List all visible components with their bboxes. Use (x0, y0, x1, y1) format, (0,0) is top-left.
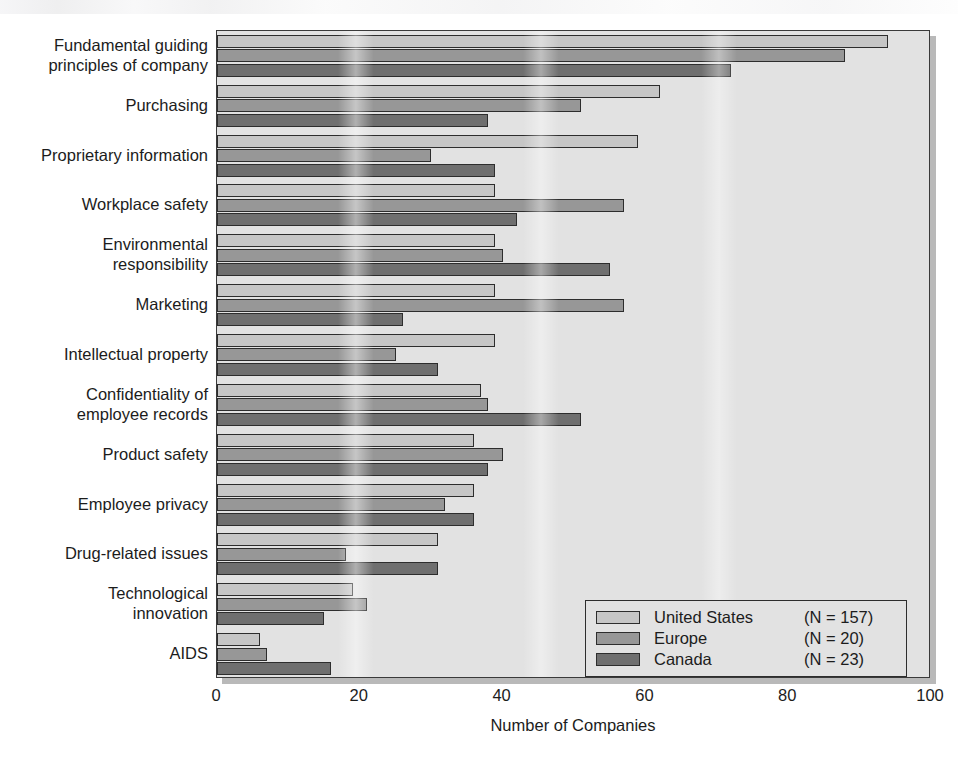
legend-sample-size: (N = 23) (804, 650, 864, 669)
legend-row: Europe(N = 20) (596, 628, 898, 649)
legend-series-name: Canada (654, 650, 804, 669)
x-tick-20: 20 (350, 686, 368, 705)
legend-swatch-us (596, 611, 640, 624)
x-tick-40: 40 (492, 686, 510, 705)
legend-row: Canada(N = 23) (596, 649, 898, 670)
legend-series-name: Europe (654, 629, 804, 648)
x-axis-title: Number of Companies (216, 716, 930, 735)
legend-row: United States(N = 157) (596, 607, 898, 628)
legend-sample-size: (N = 20) (804, 629, 864, 648)
x-tick-100: 100 (916, 686, 944, 705)
horizontal-bar-chart: Fundamental guiding principles of compan… (0, 0, 958, 768)
x-tick-80: 80 (778, 686, 796, 705)
legend-series-name: United States (654, 608, 804, 627)
legend-swatch-canada (596, 653, 640, 666)
legend-sample-size: (N = 157) (804, 608, 873, 627)
legend-swatch-europe (596, 632, 640, 645)
x-tick-0: 0 (211, 686, 220, 705)
chart-legend: United States(N = 157)Europe(N = 20)Cana… (585, 600, 907, 677)
x-tick-60: 60 (635, 686, 653, 705)
